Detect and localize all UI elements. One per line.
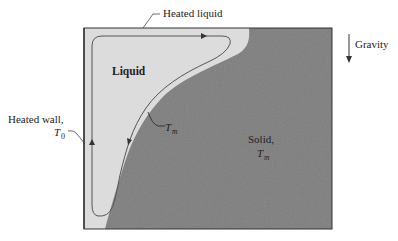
wall-temp-subscript: 0 xyxy=(61,132,65,141)
gravity-label: Gravity xyxy=(355,38,389,50)
heated-wall-label: Heated wall, xyxy=(8,113,64,125)
solid-temp-subscript: m xyxy=(264,153,270,162)
solid-label: Solid, xyxy=(248,133,274,145)
interface-temp-symbol: T xyxy=(165,121,172,133)
melting-diagram: Heated liquid Liquid Heated wall, T 0 T … xyxy=(0,0,398,241)
heated-wall-leader xyxy=(68,131,85,144)
heated-liquid-leader xyxy=(143,14,160,28)
interface-temp-subscript: m xyxy=(172,127,178,136)
solid-temp-symbol: T xyxy=(257,147,264,159)
heated-liquid-label: Heated liquid xyxy=(163,7,223,19)
gravity-arrow-down-icon xyxy=(346,56,352,63)
wall-temp-symbol: T xyxy=(54,126,61,138)
liquid-label: Liquid xyxy=(112,65,146,78)
